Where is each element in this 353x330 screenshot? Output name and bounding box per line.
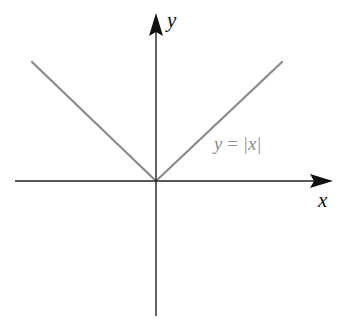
function-label: y = |x| (214, 134, 262, 153)
function-label-rhs: |x| (243, 133, 262, 154)
abs-value-graph: y x y = |x| (0, 0, 353, 330)
plot-canvas (0, 0, 353, 330)
y-axis-label: y (167, 10, 176, 31)
function-label-eq: = (222, 133, 242, 154)
function-right-branch (156, 62, 282, 181)
x-axis-label: x (318, 190, 327, 211)
function-left-branch (32, 62, 156, 181)
